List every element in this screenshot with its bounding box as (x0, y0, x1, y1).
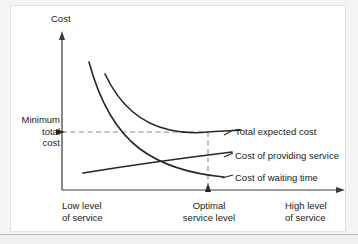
bottom-divider-band (0, 234, 358, 244)
y-axis-label: Cost (51, 13, 71, 25)
minimum-total-cost-label: Minimum total cost (14, 114, 60, 149)
series-cost-of-waiting-time (89, 62, 224, 177)
y-axis (59, 31, 65, 190)
series-total-expected-cost (105, 74, 241, 133)
series-label-cost-of-providing-service: Cost of providing service (235, 150, 339, 162)
x-tick-high-line-2: of service (285, 212, 347, 224)
x-axis (62, 187, 345, 193)
x-tick-low-line-1: Low level (62, 200, 132, 212)
x-tick-optimal-line-2: service level (170, 212, 248, 224)
x-tick-label-high-level-of-service: High level of service (285, 200, 347, 223)
series-label-cost-of-waiting-time: Cost of waiting time (235, 172, 318, 184)
minimum-total-cost-line-3: cost (14, 137, 60, 149)
minimum-total-cost-line-2: total (14, 126, 60, 138)
series-label-total-expected-cost: Total expected cost (235, 126, 316, 138)
x-tick-label-low-level-of-service: Low level of service (62, 200, 132, 223)
x-tick-high-line-1: High level (285, 200, 347, 212)
optimal-service-level-guide (205, 132, 211, 192)
x-tick-label-optimal-service-level: Optimal service level (170, 200, 248, 223)
minimum-total-cost-line-1: Minimum (14, 114, 60, 126)
x-tick-optimal-line-1: Optimal (170, 200, 248, 212)
series-cost-of-providing-service (83, 152, 232, 173)
x-tick-low-line-2: of service (62, 212, 132, 224)
